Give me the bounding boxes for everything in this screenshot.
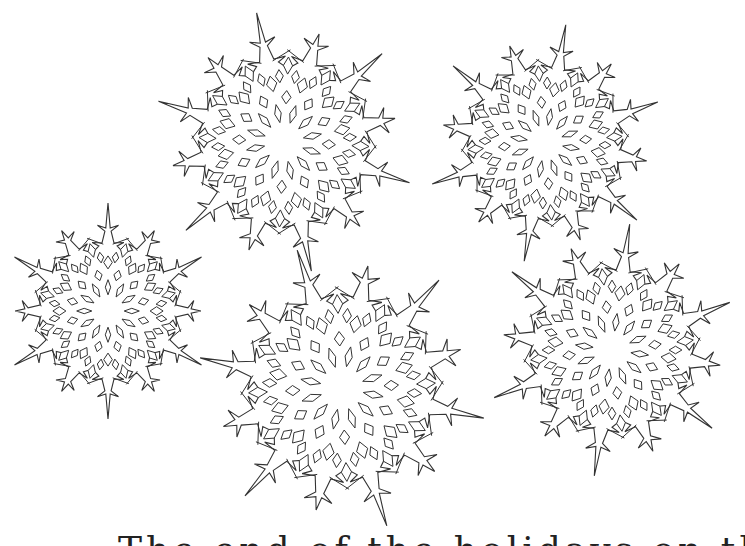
snowflake-outline xyxy=(15,203,202,419)
snowflake-cutout xyxy=(78,333,86,341)
snowflake-middle-left xyxy=(15,203,202,419)
page-caption: The end of the holidays on the north xyxy=(118,530,718,546)
snowflake-cutout xyxy=(234,176,246,187)
snowflake-cutout xyxy=(130,333,138,341)
snowflake-cutout xyxy=(239,92,250,104)
snowflake-cutout xyxy=(130,281,138,289)
snowflake-cutout xyxy=(318,180,329,192)
snowflake-coloring-canvas xyxy=(0,0,745,546)
snowflake-outline xyxy=(494,224,730,476)
snowflake-top-right xyxy=(432,25,658,261)
snowflake-cutout xyxy=(78,281,86,289)
snowflake-bottom-center xyxy=(200,250,484,526)
snowflake-bottom-right xyxy=(494,224,730,476)
snowflake-cutout xyxy=(322,97,334,108)
snowflake-top-left xyxy=(159,13,410,271)
